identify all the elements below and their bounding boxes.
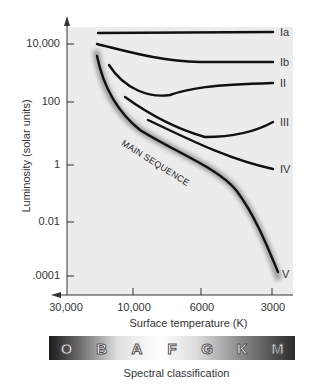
y-tick-label: 0.01 xyxy=(6,215,60,227)
class-label-III: III xyxy=(280,116,289,128)
curve-Ib xyxy=(97,44,273,62)
spectral-classification-title: Spectral classification xyxy=(0,367,311,379)
x-tick-marks xyxy=(133,288,272,295)
class-label-Ia: Ia xyxy=(280,26,289,38)
x-tick-label: 3000 xyxy=(243,301,303,313)
curve-Ia xyxy=(98,32,273,33)
y-tick-label: 100 xyxy=(6,95,60,107)
spectral-class-M: M xyxy=(265,340,289,357)
y-tick-marks xyxy=(67,44,74,276)
y-tick-label: 1 xyxy=(6,158,60,170)
y-axis-label: Luminosity (solar units) xyxy=(20,86,32,226)
y-tick-label: .0001 xyxy=(6,269,60,281)
x-axis-arrow-icon xyxy=(51,292,61,298)
spectral-class-A: A xyxy=(125,340,149,357)
spectral-class-F: F xyxy=(160,340,184,357)
x-tick-label: 6000 xyxy=(172,301,232,313)
spectral-class-B: B xyxy=(90,340,114,357)
class-label-IV: IV xyxy=(280,163,290,175)
x-tick-label: 30,000 xyxy=(36,301,96,313)
y-axis-arrow-icon xyxy=(64,16,70,26)
spectral-class-G: G xyxy=(195,340,219,357)
class-label-Ib: Ib xyxy=(280,56,289,68)
spectral-class-K: K xyxy=(230,340,254,357)
class-label-II: II xyxy=(280,77,286,89)
spectral-classification-bar: O B A F G K M xyxy=(49,336,295,360)
x-tick-label: 10,000 xyxy=(104,301,164,313)
class-label-V: V xyxy=(282,268,289,280)
y-tick-label: 10,000 xyxy=(6,37,60,49)
spectral-class-O: O xyxy=(55,340,79,357)
x-axis-label: Surface temperature (K) xyxy=(0,317,311,329)
curve-II xyxy=(109,65,273,96)
